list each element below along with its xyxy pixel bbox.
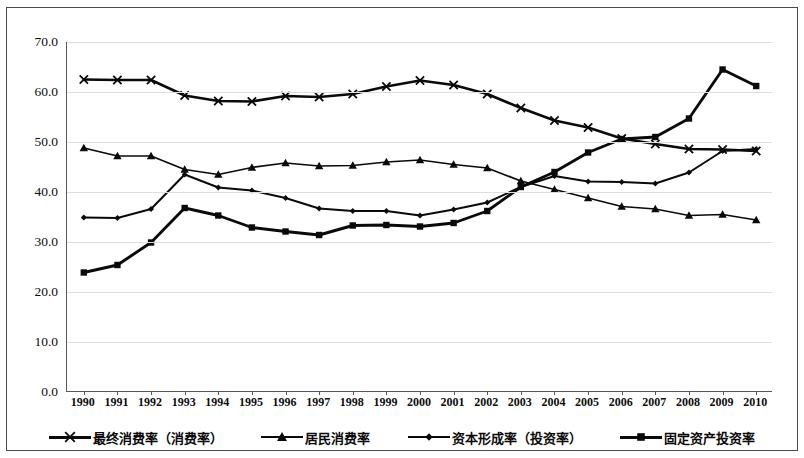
marker-square <box>383 222 389 228</box>
gridline <box>67 342 772 343</box>
marker-square <box>753 83 759 89</box>
marker-square <box>518 184 524 190</box>
series-layer <box>67 42 773 392</box>
marker-square <box>181 205 187 211</box>
marker-triangle <box>277 432 287 441</box>
gridline <box>67 142 772 143</box>
legend-item-diamond[interactable]: 资本形成率（投资率） <box>408 428 582 447</box>
legend-label: 资本形成率（投资率） <box>452 428 582 447</box>
marker-diamond <box>484 200 490 206</box>
chart-screenshot: 0.010.020.030.040.050.060.070.0 19901991… <box>0 0 804 458</box>
legend-marker-x-icon <box>49 430 91 444</box>
series-x <box>80 75 761 155</box>
marker-diamond <box>585 179 591 185</box>
marker-diamond <box>283 195 289 201</box>
marker-square <box>249 224 255 230</box>
marker-diamond <box>383 208 389 214</box>
legend-label: 固定资产投资率 <box>664 428 755 447</box>
marker-square <box>585 149 591 155</box>
marker-square <box>551 169 557 175</box>
series-polyline <box>84 80 756 152</box>
marker-square <box>686 115 692 121</box>
legend-marker-square-icon <box>620 430 662 444</box>
marker-square <box>719 66 725 72</box>
plot-area <box>66 42 772 392</box>
marker-square <box>417 223 423 229</box>
gridline <box>67 42 772 43</box>
x-tick-label: 2010 <box>735 396 775 409</box>
marker-diamond <box>350 208 356 214</box>
legend-marker-diamond-icon <box>408 430 450 444</box>
marker-square <box>215 212 221 218</box>
marker-diamond <box>425 433 432 440</box>
legend-item-x[interactable]: 最终消费率（消费率） <box>49 428 223 447</box>
marker-x <box>65 432 75 442</box>
legend-label: 居民消费率 <box>305 428 370 447</box>
marker-square <box>316 232 322 238</box>
marker-square <box>637 433 645 441</box>
marker-square <box>652 134 658 140</box>
marker-diamond <box>451 207 457 213</box>
marker-square <box>484 208 490 214</box>
legend-item-square[interactable]: 固定资产投资率 <box>620 428 755 447</box>
marker-diamond <box>316 206 322 212</box>
marker-diamond <box>81 215 87 221</box>
marker-diamond <box>215 185 221 191</box>
gridline <box>67 292 772 293</box>
legend-marker-triangle-icon <box>261 430 303 444</box>
legend-item-triangle[interactable]: 居民消费率 <box>261 428 370 447</box>
gridline <box>67 92 772 93</box>
marker-triangle <box>80 144 88 151</box>
marker-diamond <box>417 213 423 219</box>
marker-square <box>114 262 120 268</box>
gridline <box>67 192 772 193</box>
chart-legend: 最终消费率（消费率）居民消费率资本形成率（投资率）固定资产投资率 <box>6 424 798 450</box>
legend-label: 最终消费率（消费率） <box>93 428 223 447</box>
gridline <box>67 242 772 243</box>
marker-square <box>350 222 356 228</box>
marker-diamond <box>652 181 658 187</box>
marker-square <box>282 228 288 234</box>
marker-square <box>81 269 87 275</box>
marker-diamond <box>619 179 625 185</box>
marker-square <box>450 220 456 226</box>
marker-diamond <box>114 215 120 221</box>
